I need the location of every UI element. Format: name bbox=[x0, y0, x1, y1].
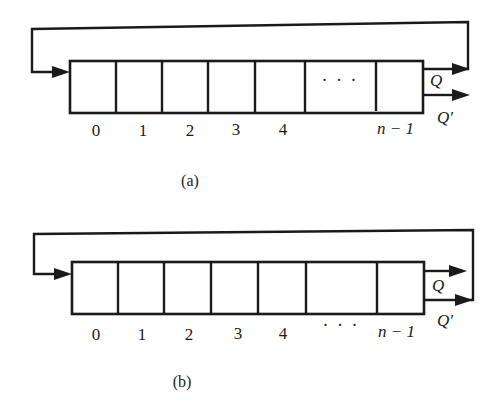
arrow-head-icon bbox=[449, 265, 467, 277]
q-prime-label-b: Q′ bbox=[437, 311, 453, 330]
cell-label: 0 bbox=[92, 325, 101, 344]
cell-label: 4 bbox=[279, 120, 288, 139]
shift-register-a bbox=[70, 61, 423, 113]
ellipsis-a: · · · bbox=[322, 70, 359, 90]
shift-register-b bbox=[72, 262, 424, 314]
caption-b: (b) bbox=[173, 373, 192, 391]
arrow-head-icon bbox=[455, 294, 473, 306]
q-label-b: Q bbox=[432, 276, 444, 295]
ellipsis-b: · · · bbox=[323, 315, 360, 335]
diagram-a: · · · Q Q′ 0 1 2 3 4 n − 1 (a) bbox=[32, 22, 470, 190]
arrow-head-icon bbox=[54, 268, 72, 280]
cell-label: 3 bbox=[234, 324, 243, 343]
cell-label: 3 bbox=[232, 120, 241, 139]
q-label-a: Q bbox=[430, 71, 442, 90]
cell-label: 1 bbox=[138, 325, 147, 344]
cell-label: 1 bbox=[139, 121, 148, 140]
cell-label: 0 bbox=[92, 121, 101, 140]
cell-label: 4 bbox=[279, 324, 288, 343]
caption-a: (a) bbox=[181, 172, 199, 190]
cell-label-last: n − 1 bbox=[377, 119, 414, 138]
arrow-head-icon bbox=[452, 89, 470, 101]
diagram-canvas: · · · Q Q′ 0 1 2 3 4 n − 1 (a) bbox=[0, 0, 501, 404]
arrow-head-icon bbox=[52, 66, 70, 78]
cell-label: 2 bbox=[185, 325, 194, 344]
diagram-b: Q Q′ 0 1 2 3 4 · · · n − 1 (b) bbox=[34, 230, 473, 391]
q-prime-label-a: Q′ bbox=[437, 108, 453, 127]
cell-label: 2 bbox=[186, 121, 195, 140]
cell-label-last: n − 1 bbox=[378, 322, 415, 341]
